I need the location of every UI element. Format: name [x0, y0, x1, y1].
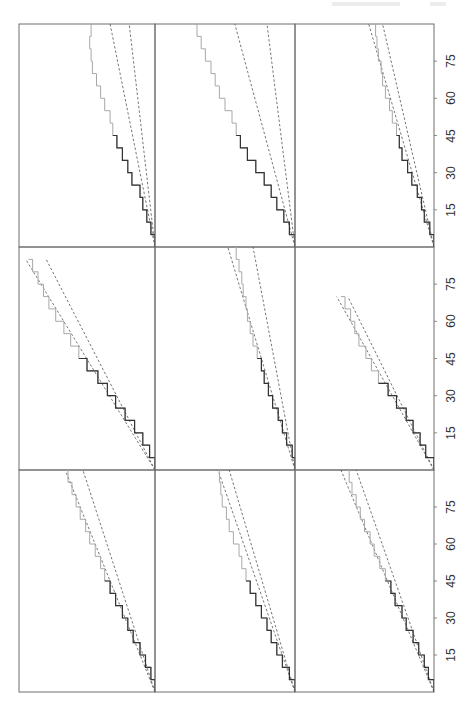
lower-bound-line [229, 470, 295, 692]
x-tick-label: 15 [444, 423, 458, 443]
series-line-light [194, 24, 295, 247]
panel-r1-c0 [19, 247, 155, 470]
chart-figure [0, 0, 470, 709]
lower-bound-line [348, 297, 434, 470]
x-tick-label: 60 [444, 311, 458, 331]
x-tick-label: 45 [444, 349, 458, 369]
x-tick-label: 75 [444, 497, 458, 517]
lower-bound-line [356, 470, 434, 692]
upper-bound-line [218, 470, 295, 692]
series-line-dark [105, 581, 155, 692]
panel-r1-c2 [295, 247, 434, 470]
panel-r2-c0 [19, 470, 155, 692]
series-line-dark [236, 136, 295, 248]
x-tick-label: 60 [444, 534, 458, 554]
x-tick-label: 15 [444, 200, 458, 220]
panel-frame [155, 470, 295, 692]
lower-bound-line [267, 24, 295, 247]
series-line-dark [79, 359, 155, 471]
panel-frame [295, 247, 434, 470]
panel-frame [295, 24, 434, 247]
x-tick-label: 45 [444, 571, 458, 591]
upper-bound-line [26, 259, 155, 470]
x-tick-label: 60 [444, 88, 458, 108]
panel-frame [19, 470, 155, 692]
lower-bound-line [383, 24, 434, 247]
series-line-dark [246, 581, 295, 692]
panel-frame [19, 24, 155, 247]
x-tick-label: 75 [444, 274, 458, 294]
x-tick-label: 15 [444, 645, 458, 665]
panel-r2-c1 [155, 470, 295, 692]
x-tick-label: 30 [444, 386, 458, 406]
lower-bound-line [46, 259, 155, 470]
series-line-dark [397, 136, 435, 248]
x-tick-label: 45 [444, 126, 458, 146]
series-line-light [235, 247, 295, 470]
panel-r0-c2 [295, 24, 434, 247]
series-line-dark [378, 383, 434, 470]
series-line-light [374, 24, 434, 247]
panel-r0-c1 [155, 24, 295, 247]
series-line-light [90, 24, 155, 247]
x-tick-label: 30 [444, 608, 458, 628]
panel-r1-c1 [155, 247, 295, 470]
panel-frame [155, 24, 295, 247]
panel-frame [295, 470, 434, 692]
x-tick-label: 30 [444, 163, 458, 183]
panel-r0-c0 [19, 24, 155, 247]
x-tick-label: 75 [444, 51, 458, 71]
series-line-dark [257, 359, 295, 471]
upper-bound-line [235, 24, 295, 247]
lower-bound-line [129, 24, 155, 247]
panel-r2-c2 [295, 470, 434, 692]
lower-bound-line [83, 470, 155, 692]
